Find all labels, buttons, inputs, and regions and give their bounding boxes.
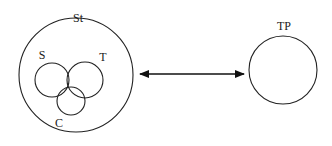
- label-tp: TP: [277, 19, 291, 33]
- label-c: C: [55, 116, 63, 130]
- right-group: TP: [249, 19, 317, 104]
- label-s: S: [39, 48, 46, 62]
- circle-tp: [249, 36, 317, 104]
- diagram-canvas: St S T C TP: [0, 0, 332, 146]
- circle-t: [67, 62, 103, 98]
- left-group: St S T C: [19, 11, 133, 132]
- circle-s: [35, 63, 69, 97]
- label-st: St: [73, 11, 84, 25]
- label-t: T: [99, 50, 107, 64]
